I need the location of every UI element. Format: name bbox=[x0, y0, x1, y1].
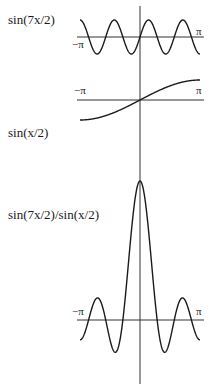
middle-tick-pi: π bbox=[196, 84, 202, 96]
label-top: sin(7x/2) bbox=[8, 12, 55, 28]
bottom-tick-neg-pi: −π bbox=[72, 305, 84, 317]
top-tick-pi: π bbox=[196, 25, 202, 37]
bottom-tick-pi: π bbox=[196, 305, 202, 317]
top-tick-neg-pi: −π bbox=[72, 38, 84, 50]
figure-canvas bbox=[0, 0, 215, 390]
label-middle: sin(x/2) bbox=[8, 125, 48, 141]
label-bottom: sin(7x/2)/sin(x/2) bbox=[8, 207, 99, 223]
middle-tick-neg-pi: −π bbox=[74, 84, 86, 96]
